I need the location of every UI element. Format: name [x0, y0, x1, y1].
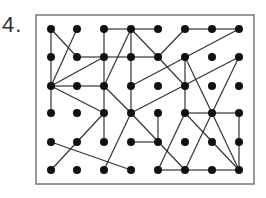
grid-dot: [181, 109, 189, 117]
grid-dot: [154, 138, 162, 146]
edge-line: [51, 142, 131, 170]
grid-dot: [208, 82, 216, 90]
edge-line: [158, 29, 185, 57]
grid-dot: [47, 82, 55, 90]
grid-dot: [208, 109, 216, 117]
grid-dot: [127, 166, 135, 174]
grid-dot: [73, 53, 81, 61]
grid-dot: [47, 53, 55, 61]
grid-dot: [235, 138, 243, 146]
edge-line: [185, 113, 212, 170]
dot-grid-diagram: [0, 0, 266, 198]
grid-dot: [235, 82, 243, 90]
grid-dot: [100, 53, 108, 61]
grid-dot: [47, 25, 55, 33]
edge-line: [51, 57, 104, 86]
grid-dot: [100, 25, 108, 33]
edge-line: [104, 86, 131, 113]
grid-dot: [154, 53, 162, 61]
grid-dot: [235, 166, 243, 174]
edge-line: [51, 29, 77, 57]
grid-dot: [47, 166, 55, 174]
grid-dot: [73, 109, 81, 117]
grid-dot: [73, 138, 81, 146]
grid-dot: [127, 109, 135, 117]
grid-dot: [127, 25, 135, 33]
grid-dot: [208, 166, 216, 174]
grid-dot: [235, 25, 243, 33]
edge-lines: [51, 29, 239, 170]
grid-dot: [235, 109, 243, 117]
grid-dot: [154, 109, 162, 117]
grid-dot: [100, 138, 108, 146]
grid-dot: [73, 82, 81, 90]
edge-line: [212, 57, 239, 113]
grid-dot: [208, 25, 216, 33]
grid-dot: [47, 109, 55, 117]
grid-dot: [127, 53, 135, 61]
grid-dot: [100, 166, 108, 174]
edge-line: [131, 29, 158, 57]
grid-dot: [181, 53, 189, 61]
edge-line: [212, 113, 239, 170]
grid-dot: [154, 82, 162, 90]
grid-dot: [100, 82, 108, 90]
grid-dot: [154, 166, 162, 174]
edge-line: [158, 57, 185, 86]
grid-dot: [181, 25, 189, 33]
grid-dot: [154, 25, 162, 33]
grid-dot: [100, 109, 108, 117]
grid-dot: [235, 53, 243, 61]
grid-dot: [181, 82, 189, 90]
edge-line: [158, 113, 185, 170]
edge-line: [185, 57, 212, 113]
grid-dot: [127, 82, 135, 90]
grid-dot: [181, 166, 189, 174]
grid-dot: [208, 53, 216, 61]
grid-dot: [73, 25, 81, 33]
grid-dot: [127, 138, 135, 146]
grid-dot: [208, 138, 216, 146]
diagram-frame: [36, 15, 254, 184]
edge-line: [51, 86, 104, 113]
grid-dot: [47, 138, 55, 146]
edge-line: [77, 113, 104, 142]
grid-dot: [181, 138, 189, 146]
grid-dot: [73, 166, 81, 174]
